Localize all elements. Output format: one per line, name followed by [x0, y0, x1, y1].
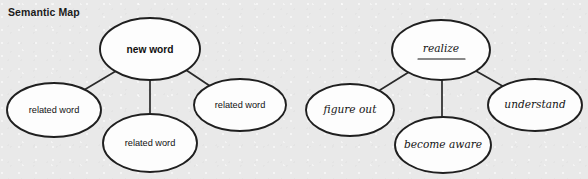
- semantic-map-figure: Semantic Map new word related word relat…: [0, 0, 588, 179]
- node-become-aware-label: become aware: [404, 138, 482, 150]
- node-figure-out[interactable]: figure out: [306, 84, 394, 136]
- edge-realize-to-understand: [476, 71, 506, 88]
- node-new-word[interactable]: new word: [100, 18, 200, 80]
- node-become-aware[interactable]: become aware: [395, 117, 491, 173]
- edge-newword-to-related-left: [84, 71, 116, 90]
- semantic-map-canvas: new word related word related word relat…: [0, 0, 588, 179]
- node-understand[interactable]: understand: [488, 79, 582, 131]
- node-related-word-middle-label: related word: [125, 138, 176, 148]
- node-understand-label: understand: [504, 98, 566, 110]
- node-new-word-label: new word: [127, 44, 174, 55]
- node-related-word-left[interactable]: related word: [7, 83, 101, 137]
- node-realize[interactable]: realize: [392, 20, 490, 80]
- node-related-word-middle[interactable]: related word: [103, 114, 197, 172]
- node-figure-out-label: figure out: [323, 103, 378, 115]
- node-realize-label: realize: [423, 42, 459, 54]
- template-map-group: new word related word related word relat…: [7, 18, 286, 172]
- example-map-group: realize figure out become aware understa…: [306, 20, 582, 173]
- edge-realize-to-figure-out: [380, 72, 409, 90]
- node-related-word-right[interactable]: related word: [194, 79, 286, 131]
- node-related-word-left-label: related word: [29, 105, 80, 115]
- node-related-word-right-label: related word: [215, 100, 266, 110]
